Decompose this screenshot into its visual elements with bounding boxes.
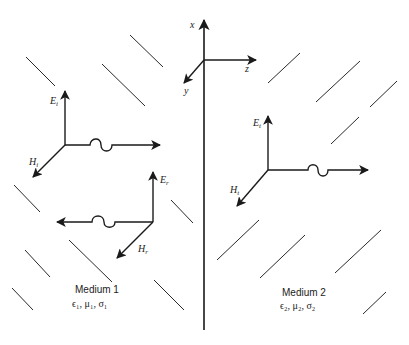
medium2-label: Medium 2 ϵ₂, μ₂, σ₂	[280, 287, 326, 311]
incident-e-label: Ei	[49, 95, 58, 108]
y-axis-arrow	[184, 60, 204, 83]
reflected-e-label: Er	[159, 174, 169, 187]
medium1-hatching	[12, 35, 193, 310]
medium2-hatching	[217, 53, 397, 314]
incident-propagation-arrow	[65, 139, 160, 151]
medium1-label: Medium 1 ϵ₁, μ₁, σ₁	[72, 284, 119, 309]
medium1-title: Medium 1	[75, 284, 119, 295]
incident-wave: Ei Hi	[28, 91, 160, 177]
reflected-propagation-arrow	[57, 216, 153, 227]
medium2-params: ϵ₂, μ₂, σ₂	[280, 300, 315, 311]
transmitted-h-label: Ht	[229, 184, 240, 197]
z-axis-label: z	[244, 63, 249, 74]
incident-h-label: Hi	[28, 156, 38, 169]
y-axis-label: y	[183, 85, 189, 96]
x-axis-label: x	[189, 19, 195, 30]
medium2-title: Medium 2	[282, 287, 326, 298]
transmitted-h-field-arrow	[237, 170, 268, 206]
reflected-h-label: Hr	[137, 243, 148, 256]
plane-wave-interface-diagram: x z y Ei Hi Er Hr Et Ht Medium 1 ϵ₁, μ₁,…	[0, 0, 409, 345]
transmitted-wave: Et Ht	[229, 116, 368, 206]
coordinate-axes: x z y	[183, 19, 256, 96]
transmitted-propagation-arrow	[268, 165, 368, 176]
medium1-params: ϵ₁, μ₁, σ₁	[72, 298, 107, 309]
transmitted-e-label: Et	[252, 117, 262, 130]
